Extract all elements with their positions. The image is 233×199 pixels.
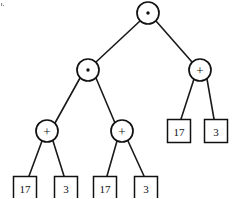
operator-node-left-multiply[interactable] <box>77 59 99 81</box>
leaf-node-3-a[interactable]: 3 <box>55 177 78 199</box>
plus-icon: + <box>196 63 203 78</box>
leaf-node-17-b[interactable]: 17 <box>94 177 117 199</box>
leaf-node-17-a[interactable]: 17 <box>14 177 37 199</box>
edge-left-mul-to-plus-a <box>55 78 80 123</box>
multiply-dot-icon <box>146 11 149 14</box>
edge-plus-a-to-leaf-17 <box>29 141 42 176</box>
leaf-node-3-c[interactable]: 3 <box>205 120 228 143</box>
edge-plus-b-to-leaf-17 <box>107 141 117 176</box>
expression-tree-figure: 17 3 17 3 17 3 <box>0 0 233 198</box>
edge-right-plus-to-leaf-17 <box>181 79 194 119</box>
multiply-dot-icon <box>86 68 89 71</box>
leaf-node-17-c[interactable]: 17 <box>168 120 191 143</box>
leaf-node-3-b[interactable]: 3 <box>135 177 158 199</box>
edge-plus-b-to-leaf-3 <box>128 141 144 176</box>
leaf-value: 17 <box>174 126 186 138</box>
tree-canvas: 17 3 17 3 17 3 <box>0 0 233 198</box>
leaf-value: 3 <box>213 126 219 138</box>
leaf-value: 3 <box>63 183 69 195</box>
plus-icon: + <box>43 124 50 139</box>
edge-root-to-right-plus <box>156 21 192 62</box>
edge-root-to-left-mul <box>96 21 140 62</box>
edge-group <box>29 21 214 176</box>
leaf-value: 3 <box>143 183 149 195</box>
edge-left-mul-to-plus-b <box>96 78 115 123</box>
edge-right-plus-to-leaf-3 <box>207 79 214 119</box>
edge-plus-a-to-leaf-3 <box>53 141 64 176</box>
plus-icon: + <box>118 124 125 139</box>
leaf-value: 17 <box>100 183 112 195</box>
operator-node-root[interactable] <box>137 2 159 24</box>
leaf-row-bottom: 17 3 17 3 <box>14 177 158 199</box>
operator-node-plus-a[interactable]: + <box>36 120 58 142</box>
operator-node-right-plus[interactable]: + <box>189 59 211 81</box>
scan-speckle-artifact <box>1 3 4 6</box>
leaf-row-right: 17 3 <box>168 120 228 143</box>
leaf-value: 17 <box>20 183 32 195</box>
operator-node-plus-b[interactable]: + <box>111 120 133 142</box>
